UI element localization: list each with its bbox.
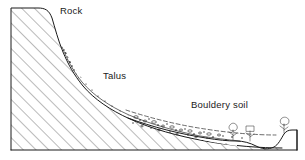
label-rock: Rock — [60, 5, 82, 16]
geologic-cross-section-figure: Rock Talus Bouldery soil — [0, 0, 305, 160]
cross-section-drawing: Rock Talus Bouldery soil — [0, 0, 305, 160]
bedrock-unit — [0, 0, 305, 160]
label-bouldery-soil: Bouldery soil — [191, 99, 248, 110]
label-talus: Talus — [103, 70, 126, 81]
shrub-icon-2 — [246, 126, 254, 141]
shrub-icon-1 — [229, 123, 237, 140]
vegetation-group — [229, 117, 289, 141]
